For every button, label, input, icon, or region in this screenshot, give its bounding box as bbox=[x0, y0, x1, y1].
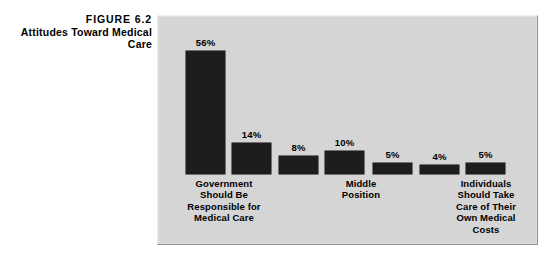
bar-4 bbox=[325, 151, 364, 174]
bar-value-label-4: 10% bbox=[335, 137, 355, 148]
bar-value-label-3: 8% bbox=[291, 142, 305, 153]
category-label-left: Government Should Be Responsible for Med… bbox=[164, 178, 284, 224]
figure-number: FIGURE 6.2 bbox=[8, 13, 152, 26]
figure-caption: FIGURE 6.2 Attitudes Toward Medical Care bbox=[8, 13, 152, 51]
figure-title-line-2: Care bbox=[8, 38, 152, 51]
category-label-right-line-1: Individuals bbox=[436, 178, 536, 189]
category-label-middle: Middle Position bbox=[313, 178, 409, 201]
category-label-left-line-4: Medical Care bbox=[164, 212, 284, 223]
category-label-right-line-2: Should Take bbox=[436, 189, 536, 200]
category-label-right-line-3: Care of Their bbox=[436, 201, 536, 212]
bar-5 bbox=[373, 163, 412, 174]
category-label-right: Individuals Should Take Care of Their Ow… bbox=[436, 178, 536, 235]
bar-1 bbox=[186, 51, 225, 174]
category-label-right-line-5: Costs bbox=[436, 224, 536, 235]
bar-value-label-6: 4% bbox=[432, 151, 446, 162]
chart-panel: 56% 14% 8% 10% 5% bbox=[157, 15, 538, 245]
bar-chart-plot-area: 56% 14% 8% 10% 5% bbox=[158, 16, 537, 244]
category-label-left-line-3: Responsible for bbox=[164, 201, 284, 212]
category-label-right-line-4: Own Medical bbox=[436, 212, 536, 223]
bar-6 bbox=[420, 165, 459, 174]
bar-2 bbox=[232, 143, 271, 174]
bar-value-label-1: 56% bbox=[196, 37, 216, 48]
bar-value-label-2: 14% bbox=[242, 129, 262, 140]
category-label-middle-line-1: Middle bbox=[313, 178, 409, 189]
category-label-left-line-1: Government bbox=[164, 178, 284, 189]
figure-screenshot: FIGURE 6.2 Attitudes Toward Medical Care… bbox=[0, 0, 558, 261]
bar-value-label-5: 5% bbox=[385, 149, 399, 160]
figure-title-line-1: Attitudes Toward Medical bbox=[8, 26, 152, 39]
category-label-left-line-2: Should Be bbox=[164, 189, 284, 200]
bar-7 bbox=[466, 163, 505, 174]
bar-3 bbox=[279, 156, 318, 174]
bar-value-label-7: 5% bbox=[478, 149, 492, 160]
category-label-middle-line-2: Position bbox=[313, 189, 409, 200]
